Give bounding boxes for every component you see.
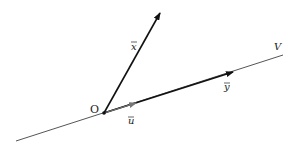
vector-y-label: y <box>223 81 230 92</box>
subspace-label-v: V <box>274 41 283 52</box>
origin-point <box>102 111 106 115</box>
svg-text:x: x <box>131 41 137 52</box>
vector-x-label: x <box>131 41 137 52</box>
vector-diagram: O x y u V <box>0 0 297 144</box>
unit-vector-u-label: u <box>128 115 134 126</box>
origin-label: O <box>90 103 99 116</box>
